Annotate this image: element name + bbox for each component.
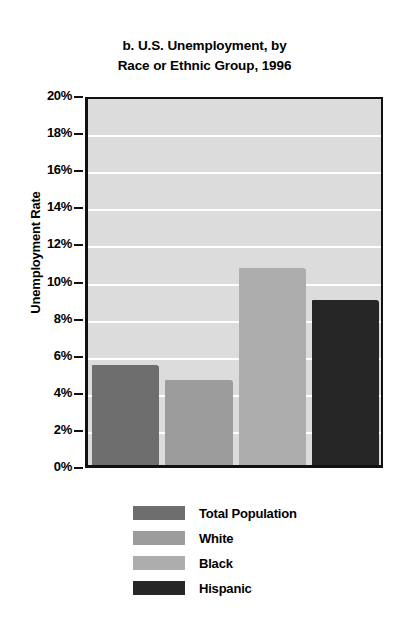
y-tick-label: 20% [14, 88, 72, 103]
plot-area [85, 97, 383, 468]
y-tick-mark [74, 467, 83, 469]
y-tick-label-wrap: 20% [8, 88, 72, 104]
y-tick-label-wrap: 14% [8, 199, 72, 215]
bar-black [239, 268, 306, 465]
y-tick-label-wrap: 16% [8, 162, 72, 178]
y-tick-label: 10% [14, 274, 72, 289]
gridline [88, 284, 381, 286]
y-tick-label-wrap: 2% [8, 422, 72, 438]
legend-item: White [133, 526, 383, 550]
legend-swatch [133, 506, 185, 520]
y-tick-mark [74, 133, 83, 135]
chart-legend: Total PopulationWhiteBlackHispanic [133, 501, 383, 601]
y-tick-label: 16% [14, 162, 72, 177]
legend-label: Black [199, 556, 233, 571]
y-tick-mark [74, 207, 83, 209]
y-tick-label-wrap: 10% [8, 274, 72, 290]
legend-swatch [133, 581, 185, 595]
y-tick-mark [74, 356, 83, 358]
bar-hispanic [312, 300, 379, 465]
y-tick-label-wrap: 6% [8, 348, 72, 364]
y-tick-label-wrap: 18% [8, 125, 72, 141]
y-tick-label: 6% [14, 348, 72, 363]
y-tick-label: 12% [14, 236, 72, 251]
y-tick-label: 4% [14, 385, 72, 400]
y-tick-mark [74, 393, 83, 395]
y-tick-label-wrap: 12% [8, 236, 72, 252]
legend-item: Black [133, 551, 383, 575]
gridline [88, 135, 381, 137]
y-tick-label: 0% [14, 459, 72, 474]
y-tick-label-wrap: 4% [8, 385, 72, 401]
y-tick-label: 2% [14, 422, 72, 437]
y-tick-label-wrap: 0% [8, 459, 72, 475]
gridline [88, 246, 381, 248]
y-axis-ticks: 20%18%16%14%12%10%8%6%4%2%0% [0, 0, 85, 624]
y-tick-mark [74, 170, 83, 172]
y-tick-label: 18% [14, 125, 72, 140]
bar-total-population [92, 365, 159, 465]
legend-item: Hispanic [133, 576, 383, 600]
bar-white [165, 380, 232, 465]
legend-swatch [133, 531, 185, 545]
gridline [88, 172, 381, 174]
legend-label: Total Population [199, 506, 297, 521]
plot-inner [88, 99, 381, 465]
legend-label: White [199, 531, 233, 546]
legend-label: Hispanic [199, 581, 252, 596]
y-tick-label-wrap: 8% [8, 311, 72, 327]
y-tick-mark [74, 244, 83, 246]
y-tick-mark [74, 282, 83, 284]
y-tick-label: 8% [14, 311, 72, 326]
y-tick-mark [74, 96, 83, 98]
legend-swatch [133, 556, 185, 570]
legend-item: Total Population [133, 501, 383, 525]
y-tick-mark [74, 430, 83, 432]
y-tick-label: 14% [14, 199, 72, 214]
gridline [88, 209, 381, 211]
y-tick-mark [74, 319, 83, 321]
